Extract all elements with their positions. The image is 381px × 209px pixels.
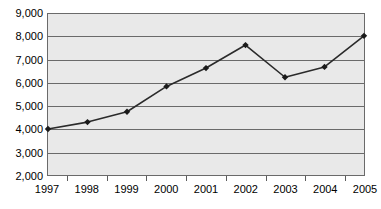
y-axis-tick-label: 7,000 [15,54,43,65]
x-axis-tick-label: 1997 [35,183,59,196]
x-axis-tick-label: 2005 [353,183,377,196]
y-axis-tick-label: 8,000 [15,31,43,42]
x-axis-labels: 199719981999200020012002200320042005 [47,183,365,203]
x-axis-tick-label: 2004 [313,183,337,196]
y-axis-tick-label: 9,000 [15,8,43,19]
y-axis-labels: 9,0008,0007,0006,0005,0004,0003,0002,000 [0,0,46,209]
x-axis-ticks [47,176,365,181]
x-axis-tick [186,176,187,181]
y-axis-tick-label: 6,000 [15,77,43,88]
x-axis-tick [305,176,306,181]
x-axis-tick [146,176,147,181]
x-axis-tick-label: 1999 [114,183,138,196]
y-axis-tick-label: 2,000 [15,171,43,182]
x-axis-tick-label: 2002 [234,183,258,196]
x-axis-tick [67,176,68,181]
plot-area [47,13,365,176]
data-line [48,36,364,129]
y-axis-tick-label: 3,000 [15,147,43,158]
x-axis-tick [107,176,108,181]
x-axis-tick [226,176,227,181]
data-series-svg [48,14,364,175]
x-axis-tick [345,176,346,181]
y-axis-tick-label: 5,000 [15,101,43,112]
x-axis-tick [266,176,267,181]
x-axis-tick-label: 2003 [273,183,297,196]
x-axis-tick-label: 2000 [154,183,178,196]
data-point-marker [84,119,90,125]
y-axis-tick-label: 4,000 [15,124,43,135]
line-chart: 9,0008,0007,0006,0005,0004,0003,0002,000… [0,0,381,209]
x-axis-tick-label: 1998 [75,183,99,196]
x-axis-tick-label: 2001 [194,183,218,196]
